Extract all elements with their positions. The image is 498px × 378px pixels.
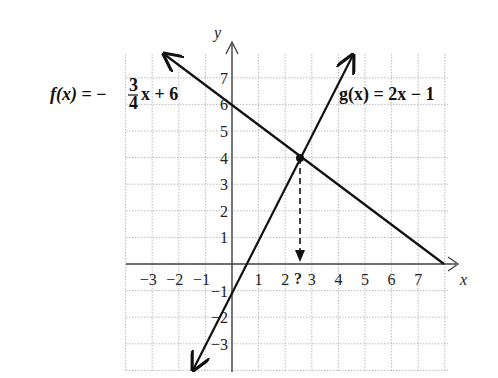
svg-text:−2: −2 xyxy=(166,271,183,288)
svg-text:−1: −1 xyxy=(193,271,210,288)
svg-text:−3: −3 xyxy=(211,336,228,353)
svg-text:3: 3 xyxy=(220,176,228,193)
svg-text:f(x) = −: f(x) = − xyxy=(50,84,107,105)
svg-text:1: 1 xyxy=(220,229,228,246)
svg-text:7: 7 xyxy=(414,271,422,288)
svg-text:4: 4 xyxy=(220,150,228,167)
line-g xyxy=(193,55,353,370)
y-axis-label: y xyxy=(212,24,222,42)
svg-text:−1: −1 xyxy=(211,283,228,300)
svg-text:5: 5 xyxy=(220,123,228,140)
svg-text:4: 4 xyxy=(334,271,342,288)
svg-text:7: 7 xyxy=(220,70,228,87)
x-axis-label: x xyxy=(459,271,467,288)
drop-arrow-icon xyxy=(295,250,305,262)
f-equation: f(x) = − 3 4 x + 6 xyxy=(50,75,178,113)
svg-text:6: 6 xyxy=(388,271,396,288)
svg-text:x + 6: x + 6 xyxy=(141,84,178,104)
svg-text:2: 2 xyxy=(281,271,289,288)
coordinate-plane: x y −3−2−11234567 7654321−1−2−3 ? f(x) =… xyxy=(0,0,498,378)
intersection-point xyxy=(296,154,304,162)
x-tick-labels: −3−2−11234567 xyxy=(140,271,423,288)
svg-text:5: 5 xyxy=(361,271,369,288)
svg-text:4: 4 xyxy=(129,93,138,113)
svg-text:2: 2 xyxy=(220,203,228,220)
svg-text:1: 1 xyxy=(255,271,263,288)
g-equation: g(x) = 2x − 1 xyxy=(339,84,435,105)
svg-text:3: 3 xyxy=(308,271,316,288)
svg-text:3: 3 xyxy=(129,75,138,95)
unknown-x-marker: ? xyxy=(294,270,302,287)
svg-text:−3: −3 xyxy=(140,271,157,288)
